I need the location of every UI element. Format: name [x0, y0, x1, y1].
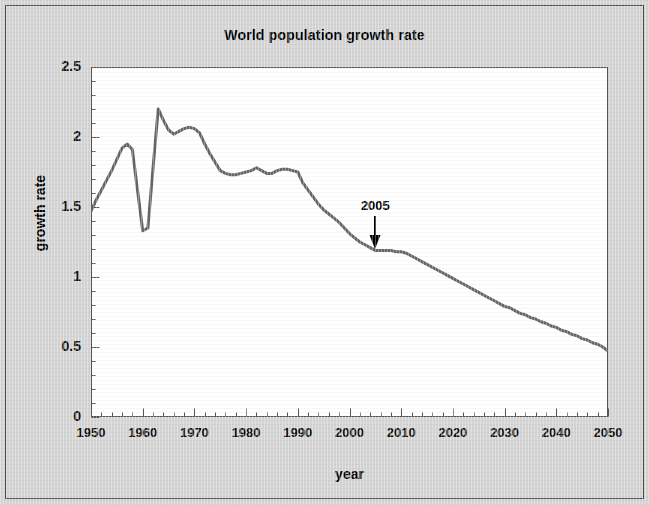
y-tick-label: 2	[21, 128, 81, 144]
y-tick-label: 0	[21, 408, 81, 424]
x-tick-label: 2050	[578, 425, 638, 440]
x-axis-label: year	[91, 466, 608, 482]
y-tick-label: 2.5	[21, 58, 81, 74]
y-tick-label: 1.5	[21, 198, 81, 214]
y-tick-label: 0.5	[21, 338, 81, 354]
down-arrow-icon	[360, 216, 390, 250]
annotation-label-2005: 2005	[347, 198, 403, 213]
chart-figure: World population growth rate growth rate…	[0, 0, 649, 505]
y-tick-label: 1	[21, 268, 81, 284]
page-title: World population growth rate	[0, 27, 649, 43]
